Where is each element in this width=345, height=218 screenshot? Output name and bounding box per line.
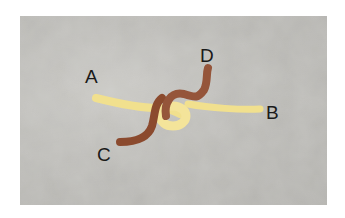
label-a: A xyxy=(85,67,98,86)
knot-photo xyxy=(20,16,327,205)
label-c: C xyxy=(97,145,111,164)
label-d: D xyxy=(200,46,214,65)
label-b: B xyxy=(266,103,279,122)
knot-illustration xyxy=(20,16,327,205)
